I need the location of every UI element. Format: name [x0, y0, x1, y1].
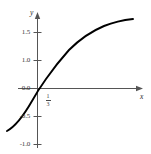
y-tick-label-5: -1.0 — [2, 140, 30, 148]
y-tick-label-1: 1.5 — [2, 28, 30, 36]
x-axis-label: x — [140, 92, 143, 101]
plot-area — [0, 0, 151, 154]
x-intercept-denominator: 3 — [41, 101, 55, 107]
y-tick-label-3: 0.0 — [2, 84, 30, 92]
chart-figure: 1.5 1.0 0.0 -0.5 -1.0 x y 1 3 — [0, 0, 151, 154]
y-tick-label-2: 1.0 — [2, 56, 30, 64]
y-axis-label: y — [30, 8, 33, 17]
x-intercept-numerator: 1 — [41, 93, 55, 99]
y-tick-label-4: -0.5 — [2, 112, 30, 120]
x-intercept-annotation: 1 3 — [41, 93, 55, 107]
